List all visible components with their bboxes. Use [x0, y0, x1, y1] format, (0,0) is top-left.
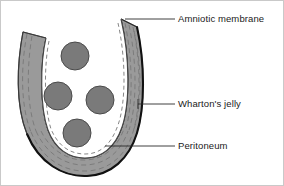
vessel-bottom [63, 119, 91, 147]
figure-umbilical-cord-cross-section: Amniotic membrane Wharton's jelly Perito… [0, 0, 284, 186]
label-whartons-jelly: Wharton's jelly [178, 98, 241, 109]
label-peritoneum: Peritoneum [178, 140, 228, 151]
vessel-right [86, 86, 114, 114]
vessel-left [44, 82, 72, 110]
label-amniotic-membrane: Amniotic membrane [178, 13, 264, 24]
umbilical-cord-diagram [1, 1, 284, 186]
vessel-top [61, 42, 89, 70]
